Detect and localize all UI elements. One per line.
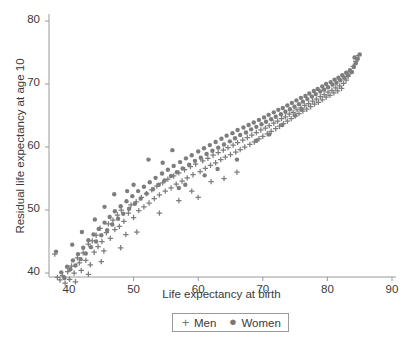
data-point-men <box>112 227 117 232</box>
data-point-men <box>230 142 235 147</box>
data-point-women <box>290 101 294 105</box>
data-point-men <box>99 259 104 264</box>
data-point-women <box>292 104 296 108</box>
data-point-men <box>225 145 230 150</box>
data-point-women <box>105 228 109 232</box>
series-men-markers <box>52 53 361 286</box>
data-point-women <box>297 102 301 106</box>
data-point-women <box>180 166 184 170</box>
data-point-women <box>177 186 181 190</box>
data-point-men <box>168 185 173 190</box>
x-tick-label: 80 <box>312 283 342 295</box>
data-point-women <box>267 132 271 136</box>
data-point-women <box>162 178 166 182</box>
data-point-women <box>121 212 125 216</box>
data-point-women <box>224 133 228 137</box>
data-point-men <box>205 156 210 161</box>
data-point-women <box>94 239 98 243</box>
data-point-women <box>354 61 358 65</box>
data-point-women <box>187 162 191 166</box>
data-point-women <box>318 89 322 93</box>
data-point-women <box>199 156 203 160</box>
data-point-men <box>108 236 113 241</box>
data-point-women <box>244 130 248 134</box>
data-point-women <box>228 139 232 143</box>
data-point-women <box>169 174 173 178</box>
data-point-women <box>264 120 268 124</box>
data-point-women <box>113 209 117 213</box>
data-point-women <box>175 170 179 174</box>
data-point-women <box>310 94 314 98</box>
data-point-women <box>131 183 135 187</box>
data-point-women <box>160 171 164 175</box>
data-point-men <box>242 144 247 149</box>
data-point-women <box>283 110 287 114</box>
data-point-women <box>86 238 90 242</box>
data-point-men <box>176 198 181 203</box>
data-point-women <box>238 133 242 137</box>
data-point-women <box>102 220 106 224</box>
data-point-women <box>97 227 101 231</box>
data-point-men <box>247 142 252 147</box>
data-point-men <box>91 250 96 255</box>
data-point-men <box>196 195 201 200</box>
data-point-men <box>134 229 139 234</box>
data-point-women <box>235 128 239 132</box>
data-point-men <box>179 178 184 183</box>
data-point-men <box>233 149 238 154</box>
data-point-women <box>84 251 88 255</box>
data-point-men <box>190 172 195 177</box>
data-point-men <box>88 262 93 267</box>
x-tick-label: 40 <box>54 283 84 295</box>
data-point-women <box>107 215 111 219</box>
data-point-women <box>208 143 212 147</box>
data-point-women <box>358 52 362 56</box>
data-point-women <box>241 125 245 129</box>
x-tick-label: 50 <box>119 283 149 295</box>
data-point-men <box>203 166 208 171</box>
data-point-women <box>246 123 250 127</box>
scatter-plot-figure: Residual life expectancy at age 10 Life … <box>0 0 414 348</box>
data-point-women <box>125 189 129 193</box>
legend-entry-women: ● Women <box>227 316 280 329</box>
x-tick-label: 70 <box>248 283 278 295</box>
data-point-men <box>163 188 168 193</box>
data-point-women <box>288 107 292 111</box>
data-point-women <box>102 205 106 209</box>
data-point-women <box>301 99 305 103</box>
data-point-men <box>83 258 88 263</box>
data-point-women <box>281 106 285 110</box>
data-point-women <box>230 131 234 135</box>
data-point-women <box>70 242 74 246</box>
data-point-women <box>294 98 298 102</box>
data-point-men <box>189 188 194 193</box>
data-point-men <box>152 196 157 201</box>
data-point-women <box>73 263 77 267</box>
data-point-men <box>55 275 60 280</box>
data-point-women <box>330 82 334 86</box>
data-point-men <box>240 137 245 142</box>
data-point-women <box>272 110 276 114</box>
data-point-women <box>314 92 318 96</box>
data-point-women <box>142 184 146 188</box>
data-point-men <box>99 239 104 244</box>
data-point-men <box>117 224 122 229</box>
data-point-women <box>151 187 155 191</box>
data-point-women <box>127 207 131 211</box>
data-point-men <box>136 208 141 213</box>
data-point-men <box>237 147 242 152</box>
data-point-men <box>254 130 259 135</box>
data-point-men <box>218 157 223 162</box>
data-point-women <box>334 81 338 85</box>
data-point-men <box>57 277 62 282</box>
x-axis-ticks <box>69 277 392 281</box>
data-point-men <box>121 219 126 224</box>
x-tick-label: 60 <box>183 283 213 295</box>
data-point-women <box>183 183 187 187</box>
legend-label-women: Women <box>241 317 280 329</box>
data-point-women <box>160 161 164 165</box>
data-point-women <box>219 137 223 141</box>
data-point-men <box>213 160 218 165</box>
data-point-women <box>293 113 297 117</box>
data-point-men <box>146 200 151 205</box>
